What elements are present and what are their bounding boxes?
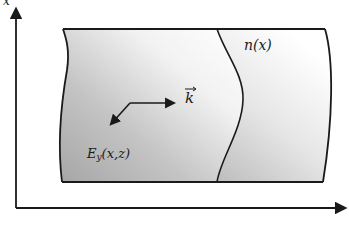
slab-waveguide-diagram: x n(x) k Ey(x,z) bbox=[0, 0, 349, 227]
diagram-canvas bbox=[0, 0, 349, 227]
field-label: Ey(x,z) bbox=[87, 147, 130, 162]
vertical-axis-label: x bbox=[3, 0, 10, 7]
refractive-index-label: n(x) bbox=[244, 38, 272, 52]
field-arguments: (x,z) bbox=[102, 146, 130, 161]
wave-vector-label: k bbox=[185, 91, 194, 106]
field-symbol: E bbox=[87, 146, 97, 161]
